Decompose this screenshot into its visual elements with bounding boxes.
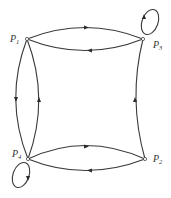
label-p3: P3 — [152, 39, 163, 51]
arrow-down-icon — [14, 97, 18, 102]
label-p4: P4 — [11, 148, 22, 160]
edge-p1-p4 — [16, 39, 28, 159]
edge-p1-p3 — [27, 28, 143, 40]
arrow-down-icon — [26, 176, 30, 181]
arrow-right-icon — [84, 26, 89, 30]
edge-p2-p4 — [28, 159, 145, 171]
label-p2: P2 — [152, 153, 163, 165]
edge-p4-p1 — [27, 39, 39, 159]
edge-p4-p2 — [28, 146, 145, 160]
label-p1: P1 — [9, 33, 19, 45]
node-p3 — [141, 37, 144, 40]
edge-p2-p3 — [136, 39, 145, 159]
node-p4 — [26, 157, 29, 160]
arrow-left-icon — [87, 169, 92, 173]
node-p1 — [25, 37, 28, 40]
markov-graph: P1 P3 P4 P2 — [0, 0, 171, 198]
node-p2 — [143, 157, 146, 160]
self-loop-p3 — [138, 7, 162, 37]
self-loop-p4 — [9, 160, 33, 190]
edge-p3-p1 — [27, 39, 143, 51]
arrow-left-icon — [87, 49, 92, 53]
arrow-up-icon — [37, 97, 41, 102]
